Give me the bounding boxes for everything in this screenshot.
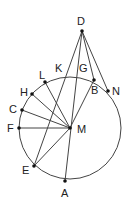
segment-dn: [82, 31, 108, 91]
point-m: [68, 126, 72, 130]
point-h: [30, 92, 34, 96]
point-c: [20, 108, 24, 112]
label-b: B: [91, 84, 98, 96]
geometry-diagram: D K G L H B N C F M E A: [0, 0, 130, 213]
label-g: G: [79, 62, 88, 74]
segment-ml: [45, 82, 70, 128]
point-n: [106, 89, 110, 93]
point-f: [17, 126, 21, 130]
label-l: L: [39, 69, 45, 81]
label-e: E: [22, 164, 29, 176]
label-h: H: [20, 86, 28, 98]
segment-me: [34, 128, 70, 166]
label-m: M: [77, 123, 86, 135]
point-a: [63, 179, 67, 183]
label-d: D: [77, 15, 85, 27]
point-b: [92, 78, 96, 82]
label-k: K: [55, 62, 63, 74]
label-a: A: [61, 187, 69, 199]
label-n: N: [112, 85, 120, 97]
segment-mc: [22, 110, 70, 128]
point-d: [80, 29, 84, 33]
point-e: [32, 164, 36, 168]
label-c: C: [9, 103, 17, 115]
label-f: F: [7, 122, 14, 134]
segment-mh: [32, 94, 70, 128]
